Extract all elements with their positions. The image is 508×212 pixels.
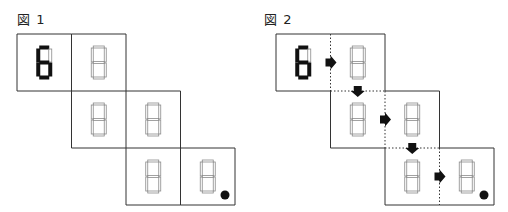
segment-f-on bbox=[36, 49, 40, 63]
segment-d-off bbox=[461, 191, 472, 193]
segment-f-off bbox=[146, 105, 148, 119]
segment-g-on bbox=[39, 61, 49, 65]
segment-d-off bbox=[352, 77, 363, 79]
segment-e-off bbox=[405, 177, 407, 191]
digit-cell bbox=[331, 34, 386, 91]
segment-g-off bbox=[461, 176, 472, 178]
digit-cell bbox=[72, 91, 127, 148]
segment-d-off bbox=[407, 134, 418, 136]
segment-a-on bbox=[298, 46, 308, 50]
segment-c-off bbox=[363, 63, 365, 77]
segment-a-off bbox=[407, 103, 418, 105]
segment-a-off bbox=[352, 103, 363, 105]
segment-a-off bbox=[148, 160, 159, 162]
figure-2 bbox=[276, 34, 494, 205]
segment-c-off bbox=[104, 120, 106, 134]
segment-e-off bbox=[200, 177, 202, 191]
segment-g-off bbox=[407, 119, 418, 121]
arrow-down-icon bbox=[351, 86, 365, 97]
segment-c-on bbox=[307, 63, 311, 77]
segment-b-off bbox=[49, 49, 52, 62]
digit-cell bbox=[126, 148, 181, 205]
segment-g-off bbox=[148, 176, 159, 178]
segment-a-off bbox=[352, 46, 363, 48]
segment-a-off bbox=[202, 160, 213, 162]
goal-dot-icon bbox=[221, 191, 230, 200]
segment-a-off bbox=[148, 103, 159, 105]
segment-g-on bbox=[298, 61, 308, 65]
digit-cell bbox=[181, 148, 236, 205]
segment-b-off bbox=[159, 105, 161, 119]
segment-a-off bbox=[461, 160, 472, 162]
segment-c-off bbox=[472, 177, 474, 191]
segment-f-off bbox=[350, 48, 352, 62]
segment-b-off bbox=[213, 162, 215, 176]
segment-d-on bbox=[39, 76, 49, 80]
arrow-right-icon bbox=[435, 170, 446, 184]
segment-b-off bbox=[418, 162, 420, 176]
digit-cell bbox=[17, 34, 72, 91]
diagram-canvas bbox=[0, 0, 508, 212]
segment-g-off bbox=[93, 62, 104, 64]
segment-b-off bbox=[472, 162, 474, 176]
segment-c-off bbox=[418, 177, 420, 191]
segment-d-off bbox=[407, 191, 418, 193]
digit-cell bbox=[126, 91, 181, 148]
segment-d-off bbox=[93, 134, 104, 136]
segment-g-off bbox=[202, 176, 213, 178]
digit-cell bbox=[276, 34, 331, 91]
segment-c-on bbox=[48, 63, 52, 77]
goal-dot-icon bbox=[480, 191, 489, 200]
digit-cell bbox=[385, 91, 440, 148]
segment-a-off bbox=[93, 46, 104, 48]
segment-d-off bbox=[93, 77, 104, 79]
segment-b-off bbox=[363, 48, 365, 62]
segment-a-off bbox=[407, 160, 418, 162]
segment-f-off bbox=[459, 162, 461, 176]
segment-e-off bbox=[459, 177, 461, 191]
digit-cell bbox=[72, 34, 127, 91]
segment-c-off bbox=[104, 63, 106, 77]
segment-b-off bbox=[363, 105, 365, 119]
segment-e-off bbox=[91, 120, 93, 134]
segment-d-off bbox=[148, 134, 159, 136]
digit-cell bbox=[331, 91, 386, 148]
figure-1 bbox=[17, 34, 235, 205]
segment-f-off bbox=[200, 162, 202, 176]
segment-b-off bbox=[418, 105, 420, 119]
segment-c-off bbox=[159, 120, 161, 134]
segment-a-on bbox=[39, 46, 49, 50]
segment-g-off bbox=[352, 62, 363, 64]
segment-e-off bbox=[91, 63, 93, 77]
segment-e-off bbox=[405, 120, 407, 134]
segment-c-off bbox=[363, 120, 365, 134]
segment-e-off bbox=[350, 120, 352, 134]
segment-f-off bbox=[146, 162, 148, 176]
segment-b-off bbox=[104, 105, 106, 119]
segment-a-off bbox=[93, 103, 104, 105]
segment-c-off bbox=[213, 177, 215, 191]
arrow-down-icon bbox=[405, 143, 419, 154]
segment-e-off bbox=[146, 177, 148, 191]
segment-f-off bbox=[91, 105, 93, 119]
segment-g-off bbox=[148, 119, 159, 121]
digit-cell bbox=[440, 148, 495, 205]
segment-f-off bbox=[405, 162, 407, 176]
segment-b-off bbox=[159, 162, 161, 176]
segment-d-off bbox=[352, 134, 363, 136]
segment-e-off bbox=[350, 63, 352, 77]
digit-cell bbox=[385, 148, 440, 205]
arrow-right-icon bbox=[380, 113, 391, 127]
segment-e-on bbox=[36, 63, 40, 77]
segment-g-off bbox=[407, 176, 418, 178]
segment-d-off bbox=[202, 191, 213, 193]
segment-f-off bbox=[91, 48, 93, 62]
segment-f-off bbox=[350, 105, 352, 119]
segment-f-on bbox=[295, 49, 299, 63]
segment-c-off bbox=[159, 177, 161, 191]
segment-f-off bbox=[405, 105, 407, 119]
segment-e-off bbox=[146, 120, 148, 134]
segment-d-on bbox=[298, 76, 308, 80]
segment-e-on bbox=[295, 63, 299, 77]
arrow-right-icon bbox=[326, 56, 337, 70]
